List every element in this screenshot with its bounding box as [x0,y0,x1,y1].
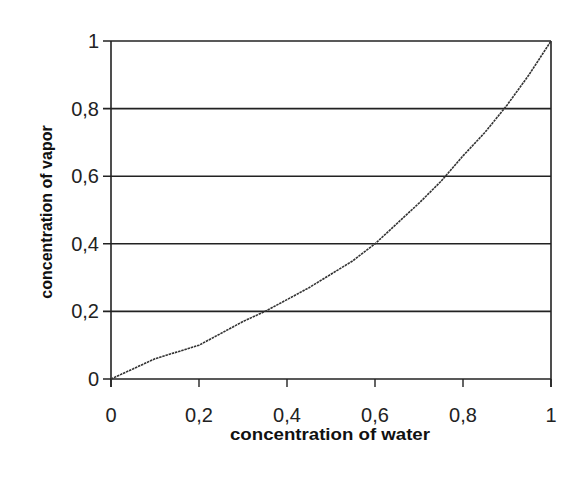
x-tick-label: 0,8 [449,404,477,426]
x-tick-label: 0,2 [185,404,213,426]
y-axis-title: concentration of vapor [38,125,55,298]
x-tick-label: 0,4 [273,404,301,426]
y-tick-label: 0,8 [71,98,99,120]
data-series-line [111,41,551,379]
y-tick-labels: 00,20,40,60,81 [71,30,99,390]
gridlines [103,41,551,379]
x-axis-title: concentration of water [230,426,430,443]
chart: 00,20,40,60,81 00,20,40,60,81 concentrat… [0,0,584,495]
x-tick-labels: 00,20,40,60,81 [105,404,556,426]
x-tick-label: 0,6 [361,404,389,426]
y-tick-label: 0,4 [71,233,99,255]
x-tick-label: 0 [105,404,116,426]
y-tick-label: 0,2 [71,300,99,322]
y-tick-label: 1 [88,30,99,52]
x-tick-label: 1 [545,404,556,426]
y-tick-label: 0 [88,368,99,390]
axes [111,41,551,387]
y-tick-label: 0,6 [71,165,99,187]
